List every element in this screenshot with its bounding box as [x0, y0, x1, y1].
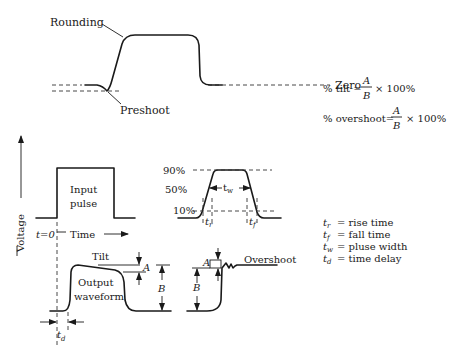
input-pulse-label-2: pulse [70, 198, 97, 209]
overshoot-formula: % overshoot= A B × 100% [323, 105, 446, 131]
svg-text:= rise time: = rise time [337, 217, 393, 228]
tr-label: tr [205, 216, 213, 229]
preshoot-label: Preshoot [120, 104, 170, 117]
rise-fall-pulse-group: 90% 50% 10% tw tr tf [163, 165, 281, 229]
input-pulse-label-1: Input [70, 184, 97, 195]
tilt-label: Tilt [92, 251, 109, 262]
svg-text:td: td [323, 253, 332, 266]
overshoot-wave [187, 263, 277, 311]
pulse-characteristics-diagram: Rounding Preshoot Zero % tilt = A B × 10… [0, 0, 455, 352]
tilt-denominator: B [362, 90, 370, 101]
tilt-B-label: B [157, 283, 165, 294]
overshoot-box [210, 260, 221, 268]
legend-item: td = time delay [323, 253, 402, 266]
tilt-A-label: A [142, 262, 150, 273]
preshoot-leader [108, 92, 121, 104]
rounding-label: Rounding [50, 16, 104, 29]
output-label-1: Output [78, 277, 114, 288]
input-pulse-group: Input pulse t=0 Time [36, 168, 135, 345]
legend: tr = rise time tf = fall time tw = pluse… [323, 217, 408, 266]
output-label-2: waveform [74, 291, 125, 302]
top-pulse-wave [85, 35, 222, 91]
tf-label: tf [249, 216, 257, 229]
svg-text:= time delay: = time delay [337, 253, 402, 264]
90pct-label: 90% [163, 165, 185, 176]
voltage-axis: Voltage [15, 136, 26, 256]
overshoot-label: Overshoot [244, 254, 296, 265]
output-wave [50, 265, 171, 311]
td-label: td [57, 329, 66, 343]
overshoot-suffix: × 100% [406, 113, 446, 124]
overshoot-formula-prefix: % overshoot= [323, 113, 394, 124]
tilt-suffix: × 100% [375, 83, 415, 94]
tw-label: tw [223, 182, 233, 195]
rounding-leader [102, 24, 123, 37]
voltage-label: Voltage [15, 214, 26, 253]
svg-text:= fall time: = fall time [337, 229, 390, 240]
tilt-formula-prefix: % tilt = [323, 83, 362, 94]
tilt-numerator: A [362, 75, 370, 86]
svg-text:= pluse width: = pluse width [337, 241, 408, 252]
time-label: Time [70, 229, 95, 240]
top-waveform-group: Rounding Preshoot Zero [50, 16, 361, 117]
overshoot-B-label: B [192, 282, 200, 293]
overshoot-denominator: B [392, 120, 400, 131]
overshoot-numerator: A [392, 105, 400, 116]
10pct-label: 10% [173, 205, 195, 216]
50pct-label: 50% [165, 184, 187, 195]
overshoot-A-label: A [202, 257, 210, 268]
overshoot-group: A Overshoot B [187, 248, 296, 311]
output-waveform-group: Tilt A B Output waveform td [40, 251, 171, 343]
t0-label: t=0 [36, 229, 55, 240]
